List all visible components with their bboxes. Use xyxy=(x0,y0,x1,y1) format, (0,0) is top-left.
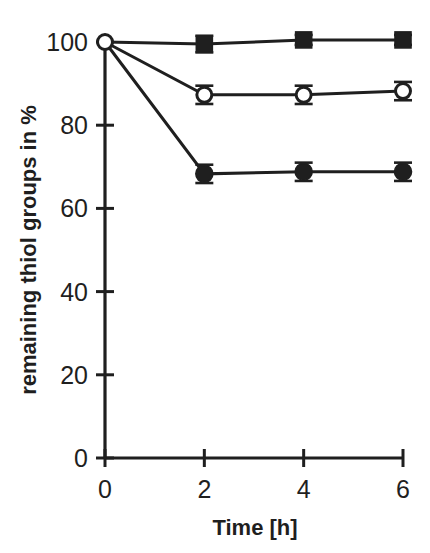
marker-filled-circle xyxy=(196,165,213,182)
marker-filled-circle xyxy=(295,163,312,180)
x-tick-label: 4 xyxy=(297,475,311,503)
line-chart-canvas: 020406080100 0246 Time [h] remaining thi… xyxy=(0,0,430,553)
chart-figure: 020406080100 0246 Time [h] remaining thi… xyxy=(0,0,430,553)
marker-filled-square xyxy=(196,36,212,52)
x-axis-title: Time [h] xyxy=(212,515,297,540)
marker-open-circle xyxy=(197,87,212,102)
marker-origin-open-circle xyxy=(98,35,113,50)
x-tick-label: 0 xyxy=(98,475,112,503)
chart-background xyxy=(0,0,430,553)
y-axis-title: remaining thiol groups in % xyxy=(16,105,41,395)
y-tick-label: 0 xyxy=(74,444,88,472)
marker-filled-circle xyxy=(395,163,412,180)
marker-open-circle xyxy=(296,87,311,102)
x-tick-label: 2 xyxy=(197,475,211,503)
marker-filled-square xyxy=(395,32,411,48)
x-tick-label: 6 xyxy=(396,475,410,503)
marker-filled-square xyxy=(296,32,312,48)
y-tick-label: 80 xyxy=(60,111,88,139)
y-tick-label: 100 xyxy=(46,28,88,56)
y-tick-label: 40 xyxy=(60,278,88,306)
marker-open-circle xyxy=(396,84,411,99)
y-tick-label: 20 xyxy=(60,361,88,389)
y-tick-label: 60 xyxy=(60,194,88,222)
